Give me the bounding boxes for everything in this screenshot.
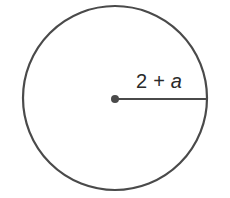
radius-label-operator: + (153, 70, 165, 92)
radius-label-variable: a (171, 70, 182, 92)
circle-diagram: 2+a (0, 0, 230, 198)
radius-label: 2+a (136, 70, 182, 92)
radius-label-constant: 2 (136, 70, 147, 92)
center-point (111, 95, 119, 103)
